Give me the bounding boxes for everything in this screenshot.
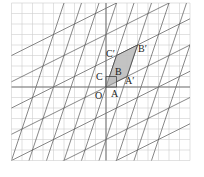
label-B-prime: B′ [138,43,147,54]
transformed-grid-lines [0,0,204,177]
label-B: B [115,66,122,77]
label-O: O [95,90,102,101]
label-A-prime: A′ [125,75,134,86]
label-A: A [111,88,119,99]
label-C: C [96,71,103,82]
label-C-prime: C′ [106,48,115,59]
transformation-diagram: O A B C A′ B′ C′ [0,0,204,177]
